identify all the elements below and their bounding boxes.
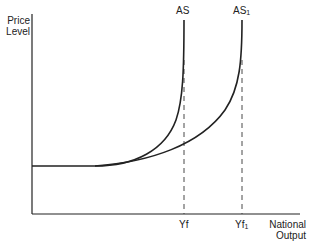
x-axis-label-line2: Output (262, 230, 306, 241)
as1-curve-label: AS1 (233, 5, 250, 18)
yf1-tick-label: Yf1 (235, 219, 248, 232)
as-curve-label: AS (176, 5, 189, 18)
y-axis-label-line1: Price (3, 15, 30, 26)
y-axis-label-line2: Level (3, 26, 30, 37)
diagram-canvas (0, 0, 310, 244)
y-axis-label: Price Level (3, 15, 30, 37)
yf-tick-label: Yf (179, 219, 188, 232)
x-axis-label: National Output (262, 219, 306, 241)
x-axis-label-line1: National (262, 219, 306, 230)
as-curve (32, 20, 184, 166)
as1-curve (95, 20, 242, 166)
